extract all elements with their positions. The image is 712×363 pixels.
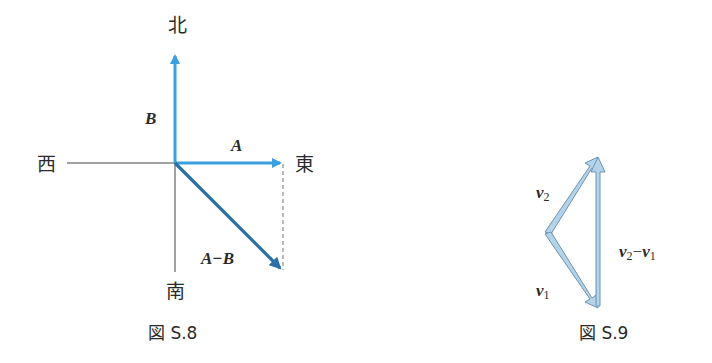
vector-v1-label: v1 [536, 281, 550, 302]
figure-s8-caption: 図 S.8 [148, 323, 197, 343]
south-label: 南 [166, 280, 185, 302]
figure-s9-caption: 図 S.9 [579, 323, 628, 343]
figure-page: 北 西 東 南 B A A−B 図 S.8 v2 v1 v2−v1 [0, 0, 712, 363]
figure-s9: v2 v1 v2−v1 図 S.9 [536, 157, 656, 343]
figure-s8: 北 西 東 南 B A A−B 図 S.8 [37, 14, 314, 343]
vector-v1-arrow [545, 232, 598, 308]
vector-v2-label: v2 [536, 183, 550, 204]
vector-v2-minus-v1-arrow [591, 157, 605, 306]
north-label: 北 [168, 14, 187, 36]
vector-v2-minus-v1-label: v2−v1 [619, 242, 656, 263]
east-label: 東 [295, 153, 314, 175]
vector-a-minus-b-label: A−B [200, 249, 234, 268]
vector-b-label: B [144, 109, 156, 128]
vector-a-label: A [230, 136, 242, 155]
west-label: 西 [37, 153, 56, 175]
diagram-canvas: 北 西 東 南 B A A−B 図 S.8 v2 v1 v2−v1 [0, 0, 712, 363]
vector-v2-arrow [545, 157, 598, 234]
